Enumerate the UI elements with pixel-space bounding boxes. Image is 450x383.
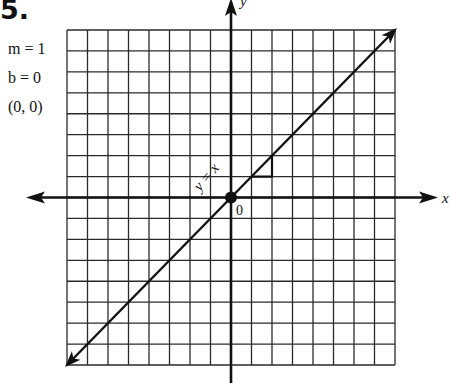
origin-label: 0 <box>236 203 243 218</box>
line-equation-label: y = x <box>189 160 223 196</box>
origin-point <box>225 192 237 204</box>
y-axis-label: y <box>238 0 247 9</box>
x-axis-label: x <box>441 190 449 206</box>
coordinate-graph: x y 0 y = x <box>0 0 450 383</box>
